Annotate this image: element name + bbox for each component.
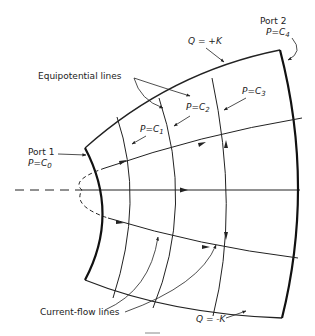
svg-text:P=C3: P=C3: [242, 86, 266, 98]
port1-boundary: [79, 148, 108, 280]
svg-text:P=C2: P=C2: [186, 102, 210, 114]
equipotential-line-c3: [212, 78, 228, 316]
svg-text:Equipotential lines: Equipotential lines: [38, 71, 122, 81]
svg-text:P=C4: P=C4: [266, 27, 290, 39]
current-flow-label: Current-flow lines: [40, 237, 216, 317]
p-c3-label: P=C3: [224, 86, 266, 110]
boundary-top: [85, 50, 280, 148]
port1-label: Port 1 P=C0: [28, 147, 86, 170]
svg-text:Q = -K: Q = -K: [196, 314, 227, 324]
svg-text:Q = +K: Q = +K: [188, 36, 223, 46]
equipotential-line-c1: [113, 117, 130, 298]
field-map-diagram: Port 2 P=C4 Q = +K Equipotential lines P…: [0, 0, 315, 336]
svg-text:P=C0: P=C0: [28, 158, 52, 170]
current-flow-line-lower: [108, 218, 298, 258]
symmetry-axis: [15, 188, 300, 193]
p-c2-label: P=C2: [174, 102, 210, 126]
svg-text:Port 1: Port 1: [28, 147, 54, 157]
p-c1-label: P=C1: [132, 124, 164, 144]
q-top-label: Q = +K: [188, 36, 224, 62]
svg-text:P=C1: P=C1: [140, 124, 164, 136]
port2-boundary: [280, 50, 298, 318]
svg-text:Port 2: Port 2: [260, 16, 286, 26]
